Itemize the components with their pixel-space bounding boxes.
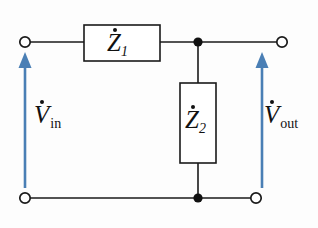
vin-symbol-with-dot: V [34, 102, 49, 127]
z1-label: Z1 [107, 30, 128, 55]
z2-subscript: 2 [199, 121, 206, 136]
vin-label: Vin [34, 102, 60, 127]
terminal-output-bottom [251, 193, 261, 203]
vout-subscript: out [280, 116, 298, 131]
junction-bottom-node [193, 193, 202, 202]
z1-subscript: 1 [121, 44, 128, 59]
vout-arrow-head [256, 52, 269, 68]
vin-arrow [19, 52, 32, 188]
terminal-input-top [20, 37, 30, 47]
z2-overdot-icon [191, 105, 195, 109]
wire-group [30, 42, 277, 198]
vin-subscript: in [50, 116, 61, 131]
vin-symbol: V [34, 101, 49, 128]
vin-arrow-head [19, 52, 32, 68]
vout-label: Vout [264, 102, 297, 127]
terminal-input-bottom [20, 193, 30, 203]
vout-symbol-with-dot: V [264, 102, 279, 127]
z1-symbol: Z [107, 29, 121, 56]
z2-symbol-with-dot: Z [185, 107, 199, 132]
circuit-diagram: Z1 Z2 Vin Vout [0, 0, 318, 228]
z1-symbol-with-dot: Z [107, 30, 121, 55]
z2-label: Z2 [185, 107, 206, 132]
junction-top-node [193, 37, 202, 46]
vout-symbol: V [264, 101, 279, 128]
terminal-output-top [277, 37, 287, 47]
z1-overdot-icon [113, 28, 117, 32]
vout-overdot-icon [270, 100, 274, 104]
z2-symbol: Z [185, 106, 199, 133]
vin-overdot-icon [40, 100, 44, 104]
